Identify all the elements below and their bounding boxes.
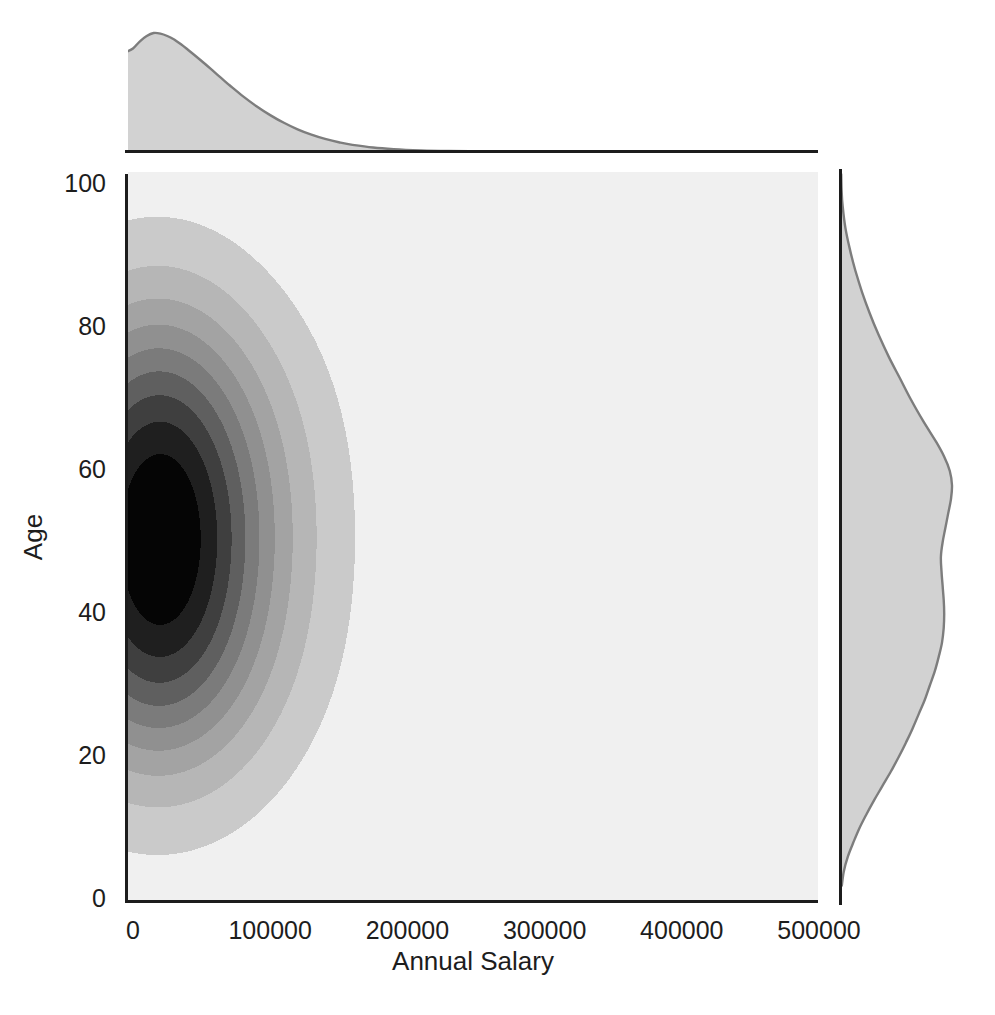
y-axis-tick-label: 0 [36, 884, 106, 913]
y-axis-label: Age [18, 514, 49, 560]
joint-bottom-spine [125, 900, 818, 903]
jointplot-figure: 0 100000 200000 300000 400000 500000 0 2… [0, 0, 995, 1015]
salary-marginal-baseline [125, 150, 818, 153]
x-axis-label: Annual Salary [392, 946, 554, 977]
age-marginal-spine [839, 169, 842, 905]
joint-left-spine [125, 174, 128, 903]
y-axis-tick-label: 20 [36, 741, 106, 770]
y-axis-tick-label: 60 [36, 455, 106, 484]
x-axis-tick-label: 100000 [228, 916, 311, 945]
x-axis-tick-label: 300000 [503, 916, 586, 945]
y-axis-tick-label: 100 [36, 169, 106, 198]
age-marginal-axes [841, 166, 995, 910]
y-axis-tick-label: 80 [36, 312, 106, 341]
y-axis-tick-label: 40 [36, 598, 106, 627]
salary-kde-fill [128, 33, 818, 152]
x-axis-tick-label: 500000 [777, 916, 860, 945]
x-axis-tick-label: 0 [126, 916, 140, 945]
salary-marginal-axes [128, 22, 818, 155]
joint-kde-canvas [128, 172, 818, 903]
x-axis-tick-label: 200000 [366, 916, 449, 945]
x-axis-tick-label: 400000 [640, 916, 723, 945]
